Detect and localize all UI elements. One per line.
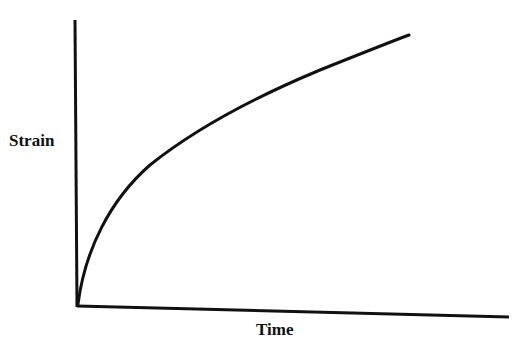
y-axis <box>75 20 77 307</box>
x-axis-label: Time <box>256 320 293 340</box>
y-axis-label: Strain <box>9 131 54 151</box>
strain-curve <box>78 35 409 304</box>
chart-canvas <box>0 0 515 351</box>
x-axis <box>77 306 509 317</box>
